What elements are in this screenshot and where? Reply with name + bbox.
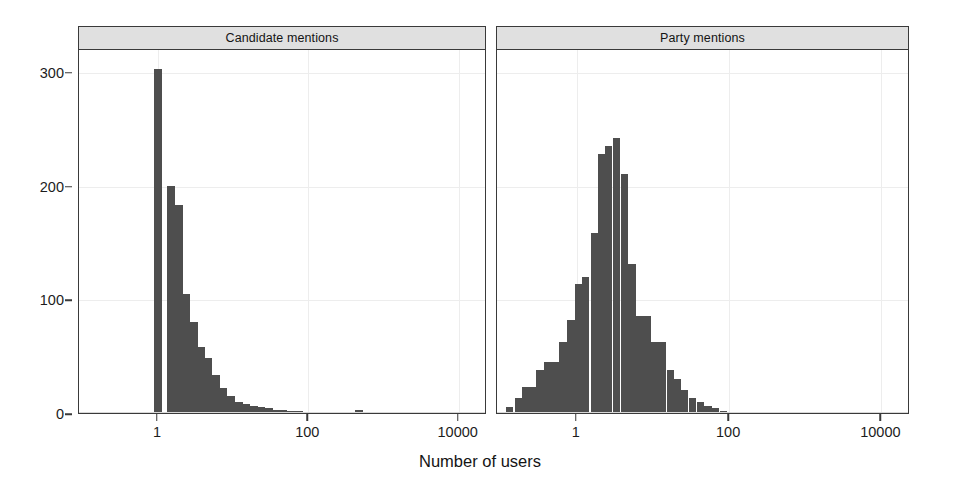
histogram-bar xyxy=(167,186,175,414)
histogram-bar xyxy=(689,398,697,413)
x-tick-label: 10000 xyxy=(438,424,478,440)
x-tick-label: 10000 xyxy=(860,424,900,440)
histogram-bar xyxy=(605,146,613,413)
y-axis: 0100200300 xyxy=(0,26,78,414)
histogram-bar xyxy=(582,277,590,414)
histogram-bar xyxy=(681,390,689,413)
y-tick-mark xyxy=(65,300,72,302)
histogram-bar xyxy=(227,396,235,413)
histogram-bar xyxy=(154,69,162,413)
y-tick-label: 0 xyxy=(56,406,64,422)
y-tick-label: 200 xyxy=(40,179,64,195)
y-tick-mark xyxy=(65,413,72,415)
x-tick-label: 1 xyxy=(572,424,580,440)
histogram-bar xyxy=(205,358,213,413)
panel-title-party: Party mentions xyxy=(660,31,745,45)
plot-area-party xyxy=(496,50,909,414)
x-axis-label: Number of users xyxy=(0,452,960,471)
x-tick-label: 100 xyxy=(716,424,740,440)
histogram-bar xyxy=(544,362,552,413)
histogram-bar xyxy=(212,375,220,413)
baseline xyxy=(79,412,485,413)
y-tick-label: 100 xyxy=(40,292,64,308)
histogram-figure: 0100200300 Candidate mentions Party ment… xyxy=(0,0,960,483)
histogram-bar xyxy=(529,387,537,413)
histogram-bar xyxy=(621,174,629,413)
panel-candidate-mentions: Candidate mentions xyxy=(78,26,486,414)
y-tick-mark xyxy=(65,186,72,188)
x-tick-mark xyxy=(156,414,158,421)
histogram-bar xyxy=(613,138,621,413)
x-tick-mark xyxy=(880,414,882,421)
plot-area-candidate xyxy=(78,50,486,414)
panel-strip-party: Party mentions xyxy=(496,26,909,50)
histogram-bar xyxy=(190,322,198,413)
x-tick-mark xyxy=(575,414,577,421)
y-tick-mark xyxy=(65,72,72,74)
histogram-bar xyxy=(220,388,228,413)
bars-party xyxy=(497,50,908,413)
panel-strip-candidate: Candidate mentions xyxy=(78,26,486,50)
bars-candidate xyxy=(79,50,485,413)
y-tick-label: 300 xyxy=(40,65,64,81)
histogram-bar xyxy=(175,205,183,413)
x-tick-mark xyxy=(727,414,729,421)
x-tick-mark xyxy=(457,414,459,421)
panel-title-candidate: Candidate mentions xyxy=(226,31,339,45)
histogram-bar xyxy=(635,316,643,413)
baseline xyxy=(497,412,908,413)
x-tick-label: 1 xyxy=(153,424,161,440)
histogram-bar xyxy=(536,370,544,413)
histogram-bar xyxy=(658,342,666,413)
x-tick-label: 100 xyxy=(295,424,319,440)
histogram-bar xyxy=(559,342,567,413)
panel-party-mentions: Party mentions xyxy=(496,26,909,414)
x-tick-mark xyxy=(307,414,309,421)
